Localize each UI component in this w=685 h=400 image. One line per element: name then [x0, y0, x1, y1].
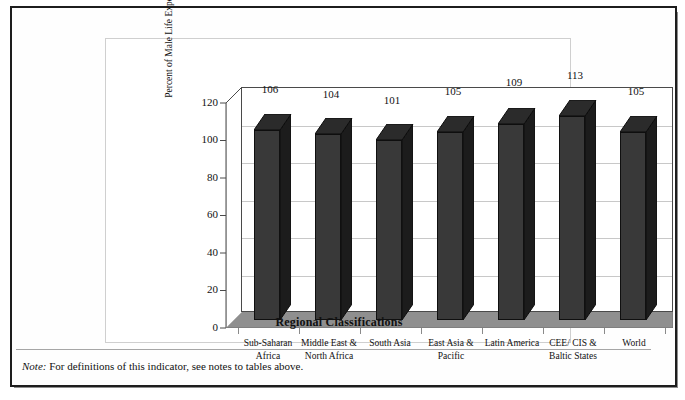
bar-value-1: 104: [301, 88, 361, 100]
bar-top-0: [254, 114, 292, 131]
footnote-keyword: Note:: [22, 360, 46, 372]
bar-value-4: 109: [484, 76, 544, 88]
bar-value-2: 101: [362, 94, 422, 106]
footnote-text: For definitions of this indicator, see n…: [49, 360, 303, 372]
bar-side-4: [524, 108, 535, 320]
chart-page: 0 20 40 60 80 100 120 Percent of Male Li…: [0, 0, 685, 400]
bar-front-2: [376, 140, 402, 320]
x-axis-title: Regional Classifications: [106, 315, 572, 330]
ytick-label-60: 60: [190, 209, 218, 220]
category-tick-6: [604, 328, 605, 334]
chart-object: 0 20 40 60 80 100 120 Percent of Male Li…: [105, 38, 571, 343]
bar-3: 105: [437, 87, 463, 320]
bar-6: 105: [620, 87, 646, 320]
bar-front-3: [437, 132, 463, 320]
y-axis-title: Percent of Male Life Expectancy: [164, 0, 174, 125]
bar-front-4: [498, 124, 524, 320]
ytick-label-100: 100: [190, 134, 218, 145]
bar-value-0: 106: [240, 83, 300, 95]
note-divider: [16, 349, 651, 350]
category-label-5-line2: Baltic States: [528, 350, 618, 363]
bar-0: 106: [254, 87, 280, 320]
bar-side-5: [585, 100, 596, 320]
plot-area: 0 20 40 60 80 100 120 Percent of Male Li…: [226, 87, 673, 322]
bar-value-5: 113: [545, 69, 605, 81]
footnote: Note: For definitions of this indicator,…: [22, 360, 303, 372]
bar-top-2: [376, 124, 414, 141]
bar-front-1: [315, 134, 341, 320]
bar-top-5: [559, 100, 597, 117]
bar-top-1: [315, 118, 353, 135]
bar-side-3: [463, 116, 474, 320]
bar-4: 109: [498, 87, 524, 320]
bar-front-5: [559, 116, 585, 320]
bar-5: 113: [559, 87, 585, 320]
bar-front-6: [620, 132, 646, 320]
category-label-3-line2: Pacific: [406, 350, 496, 363]
ytick-label-20: 20: [190, 284, 218, 295]
bar-1: 104: [315, 87, 341, 320]
bar-front-0: [254, 130, 280, 320]
bar-top-3: [437, 116, 475, 133]
bar-side-0: [280, 114, 291, 320]
bar-top-6: [620, 116, 658, 133]
ytick-label-80: 80: [190, 172, 218, 183]
ytick-label-120: 120: [190, 97, 218, 108]
ytick-label-40: 40: [190, 247, 218, 258]
bar-value-6: 105: [606, 85, 666, 97]
bar-2: 101: [376, 87, 402, 320]
bar-top-4: [498, 108, 536, 125]
bar-side-2: [402, 124, 413, 320]
bar-side-6: [646, 116, 657, 320]
category-tick-7: [665, 328, 666, 334]
bar-value-3: 105: [423, 85, 483, 97]
y-axis: [224, 83, 248, 335]
bar-side-1: [341, 118, 352, 320]
